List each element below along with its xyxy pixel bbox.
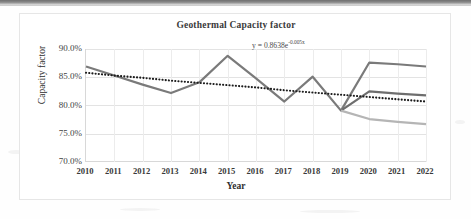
plot-area bbox=[85, 49, 425, 162]
scan-speckle bbox=[455, 120, 465, 124]
chart-series-layer bbox=[86, 49, 426, 162]
x-axis-title: Year bbox=[20, 181, 452, 191]
y-tick-label: 80.0% bbox=[36, 100, 82, 110]
scan-speckle bbox=[120, 208, 160, 211]
equation-exponent: -0.005x bbox=[288, 39, 305, 45]
y-tick-label: 90.0% bbox=[36, 43, 82, 53]
y-tick-label: 70.0% bbox=[36, 156, 82, 166]
y-tick-label: 85.0% bbox=[36, 71, 82, 81]
scan-speckle bbox=[300, 210, 360, 213]
chart-container: Geothermal Capacity factor Capacity fact… bbox=[19, 13, 451, 200]
x-tick-label: 2022 bbox=[408, 166, 442, 176]
y-axis-tick-labels: 90.0% 85.0% 80.0% 75.0% 70.0% bbox=[32, 49, 82, 162]
scan-top-bar-edge bbox=[0, 5, 471, 6]
document-page: Geothermal Capacity factor Capacity fact… bbox=[0, 0, 471, 219]
chart-title: Geothermal Capacity factor bbox=[20, 20, 452, 30]
series-line-0 bbox=[86, 56, 426, 111]
trendline-equation-annotation: y = 0.8638e-0.005x bbox=[252, 39, 305, 50]
series-line-2 bbox=[341, 111, 426, 125]
equation-base: y = 0.8638e bbox=[252, 41, 288, 50]
series-line-1 bbox=[341, 91, 426, 110]
x-axis-tick-labels: 2010 2011 2012 2013 2014 2015 2016 2017 … bbox=[85, 166, 425, 180]
gridline-vertical bbox=[426, 49, 427, 162]
y-tick-label: 75.0% bbox=[36, 128, 82, 138]
